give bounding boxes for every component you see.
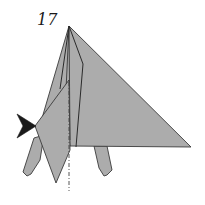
diagram-drawing (0, 0, 205, 205)
push-arrow-icon (17, 114, 36, 138)
right-leg (94, 146, 112, 176)
main-body-triangle (66, 26, 191, 147)
origami-diagram: 17 (0, 0, 205, 205)
